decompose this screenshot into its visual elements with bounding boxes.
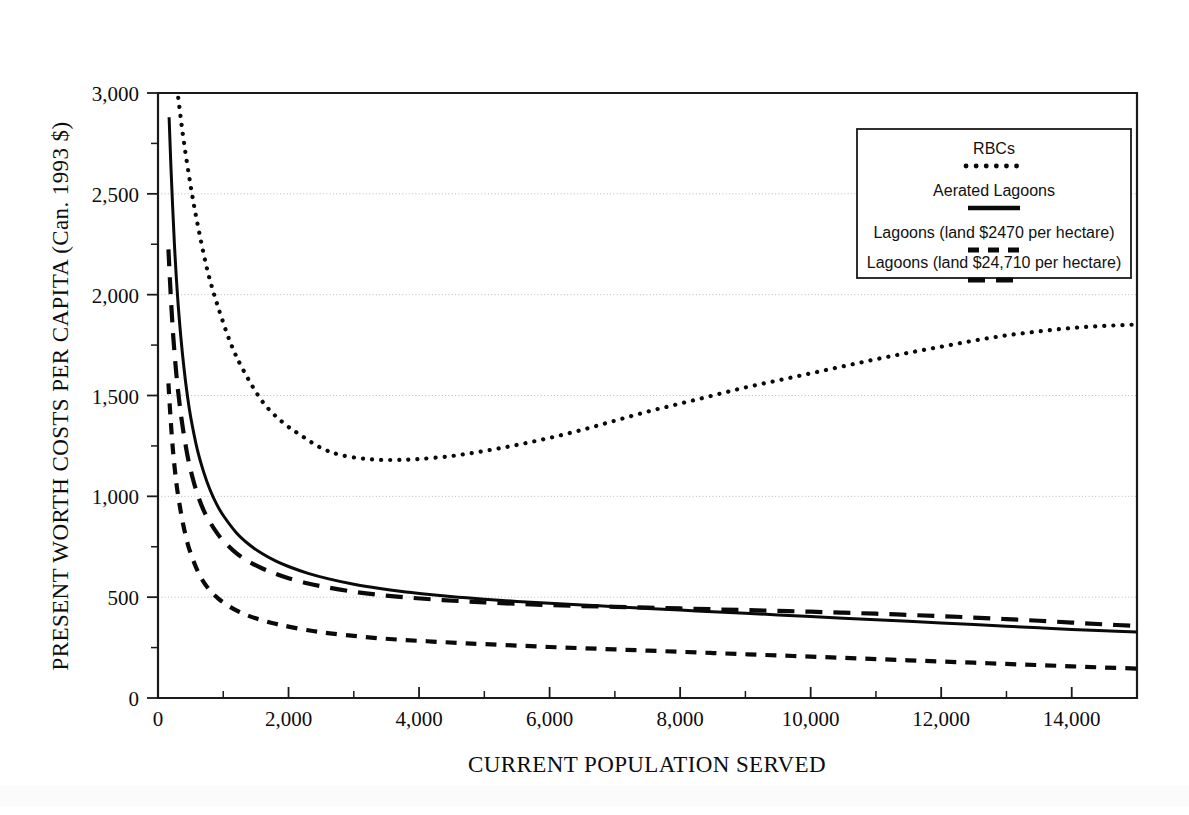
x-tick-label: 14,000 [1043,707,1101,731]
chart-background [0,0,1189,815]
scan-artifact-band [0,786,1189,806]
y-tick-label: 1,000 [92,485,139,509]
x-tick-label: 4,000 [395,707,442,731]
legend: RBCsAerated LagoonsLagoons (land $2470 p… [857,129,1131,280]
y-tick-label: 3,000 [92,82,139,106]
x-tick-label: 0 [153,707,164,731]
y-tick-label: 2,500 [92,183,139,207]
x-tick-label: 12,000 [912,707,970,731]
x-tick-label: 6,000 [526,707,573,731]
legend-label: RBCs [973,140,1015,157]
x-tick-label: 10,000 [782,707,840,731]
x-tick-label: 2,000 [265,707,312,731]
legend-label: Lagoons (land $24,710 per hectare) [867,254,1121,271]
figure-container: 02,0004,0006,0008,00010,00012,00014,000 … [0,0,1189,815]
y-tick-label: 1,500 [92,385,139,409]
legend-label: Aerated Lagoons [933,182,1055,199]
legend-label: Lagoons (land $2470 per hectare) [873,224,1114,241]
y-tick-label: 500 [108,586,140,610]
x-axis-title: CURRENT POPULATION SERVED [468,752,826,777]
y-tick-label: 2,000 [92,284,139,308]
y-tick-label: 0 [129,687,140,711]
x-tick-label: 8,000 [657,707,704,731]
chart-svg: 02,0004,0006,0008,00010,00012,00014,000 … [0,0,1189,815]
y-axis-title: PRESENT WORTH COSTS PER CAPITA (Can. 199… [48,122,73,671]
